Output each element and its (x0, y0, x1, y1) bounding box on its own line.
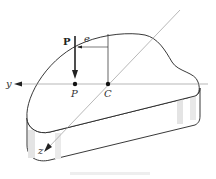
y-axis-arrowhead (14, 82, 22, 87)
load-label: P (63, 36, 71, 47)
eccentric-load-diagram: y z e P P C (0, 0, 216, 179)
point-p-label: P (70, 88, 78, 99)
centroid-point (106, 82, 110, 86)
point-p (73, 82, 77, 86)
eccentricity-label: e (84, 33, 90, 44)
centroid-label: C (104, 88, 112, 99)
y-axis-label: y (5, 78, 12, 89)
figure-caption (70, 172, 150, 175)
z-axis-label: z (37, 145, 44, 156)
